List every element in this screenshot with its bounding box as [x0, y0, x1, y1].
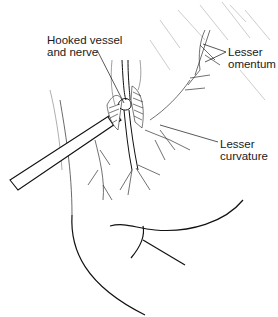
- label-line: and nerve: [47, 46, 122, 58]
- label-line: curvature: [220, 150, 268, 162]
- leader-omentum-1: [203, 44, 226, 52]
- label-lesser-curvature: Lesser curvature: [220, 138, 268, 162]
- label-hooked-vessel-and-nerve: Hooked vessel and nerve: [47, 34, 122, 58]
- label-line: Lesser: [228, 46, 276, 58]
- label-line: omentum: [228, 58, 276, 70]
- label-line: Hooked vessel: [47, 34, 122, 46]
- organ-outline: [50, 90, 243, 315]
- label-line: Lesser: [220, 138, 268, 150]
- hook-retractor: [10, 112, 121, 190]
- label-lesser-omentum: Lesser omentum: [228, 46, 276, 70]
